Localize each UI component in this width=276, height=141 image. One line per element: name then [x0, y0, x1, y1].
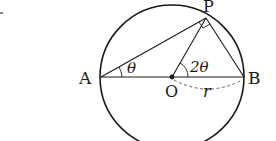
label-a: A: [78, 68, 92, 88]
angle-arc-a: [119, 67, 122, 77]
label-o: O: [165, 82, 178, 101]
label-r: r: [203, 82, 212, 101]
label-2theta: 2θ: [189, 58, 209, 76]
circle-theorem-diagram: A B O P θ 2θ r: [0, 0, 276, 141]
label-p: P: [203, 0, 214, 16]
angle-arc-o: [180, 63, 188, 77]
label-b: B: [248, 68, 261, 88]
label-theta: θ: [127, 59, 136, 77]
edge-artifact: [0, 12, 3, 14]
center-point-o: [170, 75, 175, 80]
